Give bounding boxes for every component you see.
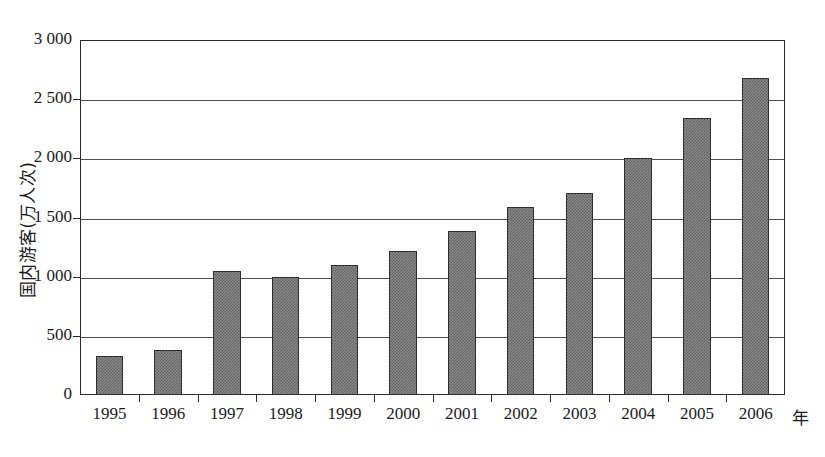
y-axis-tick-label: 0 [2, 384, 72, 404]
y-axis-tick-label: 2 000 [2, 147, 72, 167]
bar [742, 78, 770, 395]
y-axis-tick-label: 3 000 [2, 29, 72, 49]
x-axis-tick-mark [668, 395, 669, 402]
y-axis-tick-labels: 3 0002 5002 0001 5001 0005000 [0, 40, 72, 395]
bars-group [80, 40, 785, 395]
bar [566, 193, 594, 395]
y-axis-tick-mark [73, 99, 80, 100]
x-axis-tick-labels: 1995199619971998199920002001200220032004… [80, 404, 785, 438]
x-axis-tick-mark [315, 395, 316, 402]
bar-chart: 国内游客(万人次) 3 0002 5002 0001 5001 0005000 … [0, 0, 825, 457]
bar [272, 277, 300, 395]
x-axis-tick-mark [433, 395, 434, 402]
y-axis-tick-mark [73, 277, 80, 278]
x-axis-tick-mark [550, 395, 551, 402]
bar [389, 251, 417, 395]
x-axis-ticks [80, 395, 785, 403]
x-axis-tick-mark [374, 395, 375, 402]
bar [213, 271, 241, 395]
bar [331, 265, 359, 395]
y-axis-tick-label: 1 000 [2, 266, 72, 286]
x-axis-tick-mark [198, 395, 199, 402]
bar [683, 118, 711, 395]
y-axis-tick-label: 1 500 [2, 207, 72, 227]
y-axis-tick-label: 500 [2, 325, 72, 345]
y-axis-tick-mark [73, 336, 80, 337]
bar [507, 207, 535, 395]
bar [96, 356, 124, 395]
x-axis-tick-mark [256, 395, 257, 402]
bar [448, 231, 476, 395]
x-axis-tick-mark [609, 395, 610, 402]
bar [154, 350, 182, 395]
x-axis-tick-mark [491, 395, 492, 402]
x-axis-tick-label: 2006 [721, 404, 791, 424]
y-axis-tick-mark [73, 158, 80, 159]
x-axis-unit-label: 年 [792, 404, 809, 429]
bar [624, 158, 652, 395]
x-axis-tick-mark [726, 395, 727, 402]
y-axis-tick-label: 2 500 [2, 88, 72, 108]
x-axis-tick-mark [139, 395, 140, 402]
y-axis-tick-mark [73, 218, 80, 219]
